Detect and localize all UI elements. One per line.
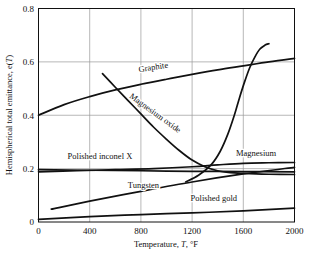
- x-tick-label: 800: [134, 226, 148, 236]
- y-tick-label: 0.4: [23, 111, 35, 121]
- x-tick-label: 1200: [183, 226, 202, 236]
- curve-label-polished-gold: Polished gold: [191, 193, 238, 203]
- x-axis-title: Temperature, T, °F: [134, 239, 198, 249]
- curve-label-polished-inconel-x: Polished inconel X: [68, 151, 133, 161]
- emittance-vs-temperature-chart: 0400800120016002000 00.20.40.60.8 Graphi…: [0, 0, 312, 254]
- curve-label-tungsten: Tungsten: [128, 180, 160, 190]
- x-tick-label: 1600: [234, 226, 253, 236]
- y-tick-label: 0.2: [23, 164, 34, 174]
- x-title-lead: Temperature,: [134, 239, 181, 249]
- x-tick-label: 400: [83, 226, 97, 236]
- y-tick-label: 0: [30, 217, 35, 227]
- chart-figure: 0400800120016002000 00.20.40.60.8 Graphi…: [0, 0, 312, 254]
- x-tick-label: 2000: [286, 226, 305, 236]
- y-tick-label: 0.8: [23, 4, 35, 14]
- chart-background: [0, 0, 312, 254]
- curve-label-magnesium: Magnesium: [236, 148, 277, 158]
- y-title-tail: ): [4, 55, 14, 58]
- y-title-lead: Hemispherical total emittance, e(: [4, 62, 14, 175]
- x-title-unit: , °F: [186, 239, 199, 249]
- y-tick-label: 0.6: [23, 57, 35, 67]
- x-tick-label: 0: [36, 226, 41, 236]
- y-axis-title: Hemispherical total emittance, e(T): [4, 55, 14, 176]
